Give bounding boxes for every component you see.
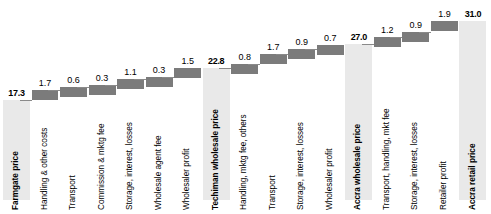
connector-line bbox=[48, 90, 60, 91]
delta-value-label: 1.1 bbox=[117, 67, 144, 77]
delta-value-label: 0.9 bbox=[288, 37, 315, 47]
delta-column: 1.7Transport bbox=[260, 0, 287, 214]
total-value-label: 31.0 bbox=[459, 9, 486, 19]
delta-value-label: 1.7 bbox=[260, 42, 287, 52]
delta-column: 1.5Wholesaler profit bbox=[174, 0, 201, 214]
connector-line bbox=[248, 64, 260, 65]
delta-value-label: 0.3 bbox=[89, 73, 116, 83]
connector-line bbox=[20, 100, 32, 101]
delta-column: 1.9Retailer profit bbox=[431, 0, 458, 214]
delta-bar bbox=[374, 37, 401, 47]
delta-column: 0.7Wholesaler profit bbox=[317, 0, 344, 214]
connector-line bbox=[134, 79, 146, 80]
waterfall-chart: 17.3Farmgate price1.7Handling & other co… bbox=[0, 0, 491, 214]
total-column: 17.3Farmgate price bbox=[3, 0, 30, 214]
delta-column: 1.2Transport, handling, mkt fee bbox=[374, 0, 401, 214]
connector-line bbox=[390, 37, 402, 38]
delta-value-label: 0.6 bbox=[60, 75, 87, 85]
delta-bar bbox=[317, 45, 344, 55]
delta-bar bbox=[117, 79, 144, 89]
connector-line bbox=[162, 77, 174, 78]
connector-line bbox=[305, 49, 317, 50]
connector-line bbox=[77, 87, 89, 88]
delta-column: 0.9Storage, interest, losses bbox=[288, 0, 315, 214]
total-value-label: 27.0 bbox=[345, 32, 372, 42]
delta-bar bbox=[89, 85, 116, 95]
delta-value-label: 1.2 bbox=[374, 25, 401, 35]
connector-line bbox=[362, 44, 374, 45]
connector-line bbox=[419, 32, 431, 33]
delta-bar bbox=[174, 68, 201, 78]
delta-bar bbox=[146, 77, 173, 87]
delta-column: 0.3Commission & mktg fee bbox=[89, 0, 116, 214]
total-column: 27.0Accra wholesale price bbox=[345, 0, 372, 214]
delta-bar bbox=[231, 64, 258, 74]
connector-line bbox=[276, 54, 288, 55]
total-column: 22.8Techiman wholesale price bbox=[203, 0, 230, 214]
delta-column: 0.6Transport bbox=[60, 0, 87, 214]
delta-column: 1.7Handling & other costs bbox=[32, 0, 59, 214]
connector-line bbox=[105, 85, 117, 86]
delta-value-label: 0.3 bbox=[146, 65, 173, 75]
total-column: 31.0Accra retail price bbox=[459, 0, 486, 214]
delta-value-label: 1.5 bbox=[174, 56, 201, 66]
total-value-label: 17.3 bbox=[3, 88, 30, 98]
delta-bar bbox=[402, 32, 429, 42]
connector-line bbox=[219, 68, 231, 69]
delta-column: 1.1Storage, interest, losses bbox=[117, 0, 144, 214]
delta-value-label: 0.8 bbox=[231, 52, 258, 62]
delta-bar bbox=[32, 90, 59, 100]
delta-column: 0.3Wholesale agent fee bbox=[146, 0, 173, 214]
delta-value-label: 1.7 bbox=[32, 78, 59, 88]
delta-value-label: 0.7 bbox=[317, 33, 344, 43]
delta-bar bbox=[260, 54, 287, 64]
delta-bar bbox=[288, 49, 315, 59]
delta-bar bbox=[431, 21, 458, 31]
total-value-label: 22.8 bbox=[203, 56, 230, 66]
delta-bar bbox=[60, 87, 87, 97]
delta-value-label: 1.9 bbox=[431, 9, 458, 19]
delta-column: 0.8Handling, mktg fee, others bbox=[231, 0, 258, 214]
delta-value-label: 0.9 bbox=[402, 20, 429, 30]
